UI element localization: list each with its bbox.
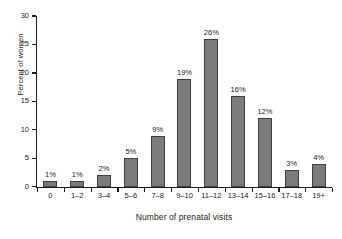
x-axis-tick-label: 3–4 <box>91 192 118 200</box>
y-axis-tick: 0 <box>32 186 36 187</box>
bar-value-label: 1% <box>45 171 56 179</box>
bar-value-label: 12% <box>257 108 272 116</box>
bar <box>258 118 272 186</box>
bar <box>151 136 165 187</box>
bar-value-label: 4% <box>313 154 324 162</box>
y-axis-tick-label: 0 <box>25 183 29 191</box>
y-axis-tick: 10 <box>32 129 36 130</box>
y-axis-tick: 15 <box>32 101 36 102</box>
y-axis-tick-label: 20 <box>21 69 29 77</box>
prenatal-visits-bar-chart: Percent of women 051015202530 1%1%2%5%9%… <box>0 0 342 239</box>
bar-series: 1%1%2%5%9%19%26%16%12%3%4% <box>37 16 332 187</box>
x-axis-title: Number of prenatal visits <box>36 212 332 222</box>
y-axis-tick: 20 <box>32 72 36 73</box>
bar <box>204 39 218 187</box>
x-axis-tick-label: 15–16 <box>252 192 279 200</box>
x-axis-tick-label: 1–2 <box>64 192 91 200</box>
bar-value-label: 26% <box>204 29 219 37</box>
y-axis-title: Percent of women <box>16 5 25 125</box>
y-axis-tick: 5 <box>32 158 36 159</box>
x-axis-tick-label: 5–6 <box>117 192 144 200</box>
bar-value-label: 16% <box>231 86 246 94</box>
bar-value-label: 1% <box>72 171 83 179</box>
y-axis-tick-label: 10 <box>21 126 29 134</box>
x-axis-tick <box>332 188 333 192</box>
bar-slot: 26% <box>198 16 225 187</box>
x-axis-tick-label: 13–14 <box>225 192 252 200</box>
bar-value-label: 9% <box>152 126 163 134</box>
bar-value-label: 3% <box>286 160 297 168</box>
x-axis-tick-label: 7–8 <box>144 192 171 200</box>
bar <box>43 181 57 187</box>
bar-slot: 4% <box>305 16 332 187</box>
y-axis-tick-label: 30 <box>21 12 29 20</box>
bar-value-label: 19% <box>177 69 192 77</box>
bar-slot: 5% <box>117 16 144 187</box>
x-axis-tick-label: 11–12 <box>198 192 225 200</box>
y-axis-tick: 25 <box>32 44 36 45</box>
y-axis-tick-label: 25 <box>21 41 29 49</box>
x-axis-tick-label: 0 <box>37 192 64 200</box>
bar-slot: 12% <box>252 16 279 187</box>
bar-slot: 1% <box>64 16 91 187</box>
y-axis-tick-label: 5 <box>25 155 29 163</box>
bar <box>97 175 111 186</box>
bar-slot: 9% <box>144 16 171 187</box>
y-axis-tick-label: 15 <box>21 98 29 106</box>
bar <box>177 79 191 187</box>
bar <box>70 181 84 187</box>
bar <box>285 170 299 187</box>
y-axis-tick: 30 <box>32 15 36 16</box>
bar-slot: 19% <box>171 16 198 187</box>
bar-value-label: 5% <box>125 148 136 156</box>
bar <box>312 164 326 187</box>
x-axis-tick-labels: 01–23–45–67–89–1011–1213–1415–1617–1819+ <box>36 192 332 206</box>
x-axis-line <box>36 187 332 188</box>
x-axis-tick-label: 9–10 <box>171 192 198 200</box>
x-axis-tick-label: 19+ <box>305 192 332 200</box>
bar-slot: 2% <box>91 16 118 187</box>
bar-value-label: 2% <box>99 165 110 173</box>
bar-slot: 16% <box>225 16 252 187</box>
bar <box>124 158 138 186</box>
bar <box>231 96 245 187</box>
plot-area: 051015202530 1%1%2%5%9%19%26%16%12%3%4% <box>36 16 332 188</box>
bar-slot: 1% <box>37 16 64 187</box>
x-axis-tick-label: 17–18 <box>278 192 305 200</box>
bar-slot: 3% <box>278 16 305 187</box>
